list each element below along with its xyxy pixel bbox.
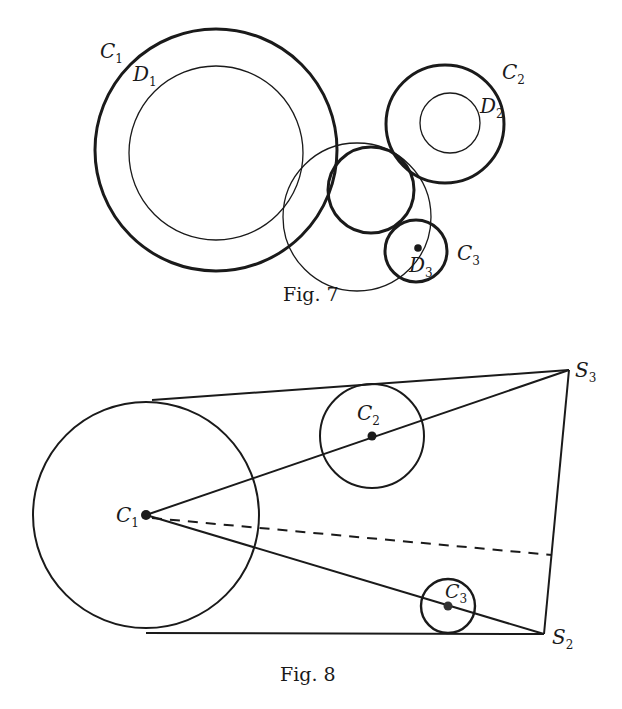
- label-d2-fig7: D2: [479, 94, 504, 121]
- line-s3-s2: [544, 370, 569, 634]
- top-tangent-line: [152, 370, 569, 400]
- diagram-canvas: C1 D1 C2 D2 C3 D3 Fig. 7 C1 C2 C3 S3 S2 …: [0, 0, 622, 709]
- figure-8: [33, 370, 569, 634]
- point-c2: [368, 432, 377, 441]
- circle-d2: [420, 93, 480, 153]
- bottom-tangent-line: [146, 633, 544, 634]
- label-c2-fig7: C2: [502, 60, 525, 87]
- label-d3-fig7: D3: [408, 253, 433, 280]
- circle-c1: [95, 29, 337, 271]
- caption-fig7: Fig. 7: [283, 283, 339, 305]
- circle-d1: [129, 66, 303, 240]
- caption-fig8: Fig. 8: [280, 663, 336, 685]
- label-d1-fig7: D1: [132, 62, 157, 89]
- label-s2: S2: [552, 625, 573, 652]
- label-c2-fig8: C2: [357, 401, 380, 428]
- line-c1-s2: [146, 515, 544, 634]
- label-c1-fig8: C1: [116, 503, 139, 530]
- label-c3-fig7: C3: [457, 241, 480, 268]
- point-c3: [444, 602, 453, 611]
- label-c1-fig7: C1: [100, 39, 123, 66]
- circle-c2: [386, 65, 504, 183]
- point-d3: [414, 244, 422, 252]
- circle-middle: [328, 147, 414, 233]
- line-c1-s3: [146, 370, 569, 515]
- point-c1: [141, 510, 151, 520]
- dashed-line: [152, 518, 552, 555]
- figure-7: [95, 29, 504, 291]
- label-s3: S3: [575, 358, 596, 385]
